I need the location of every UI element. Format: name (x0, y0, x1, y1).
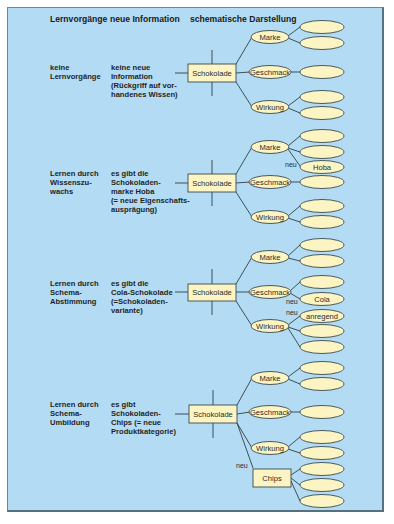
leaf-node (300, 66, 344, 79)
leaf-node (300, 255, 344, 268)
leaf-node (300, 176, 344, 189)
svg-text:Marke: Marke (259, 33, 280, 42)
row-wissenszuwachs: Lernen durch Wissenszu- wachs es gibt di… (49, 130, 344, 229)
leaf-node (300, 91, 344, 104)
leaf-node (300, 276, 344, 289)
new-label: neu (286, 298, 298, 305)
info-label: es gibt (111, 400, 136, 409)
leaf-node (300, 37, 344, 50)
leaf-node (300, 239, 344, 252)
leaf-node (300, 463, 344, 476)
process-label: Lernen durch (50, 279, 99, 288)
leaf-node (300, 447, 344, 460)
info-label: variante) (111, 306, 143, 315)
header-schematische-darstellung: schematische Darstellung (190, 14, 297, 24)
leaf-node (300, 107, 344, 120)
svg-text:Geschmack: Geschmack (250, 288, 290, 297)
info-label: Chips (= neue (111, 418, 161, 427)
svg-text:Marke: Marke (259, 253, 280, 262)
leaf-node (300, 146, 344, 159)
leaf-node (300, 130, 344, 143)
info-label: (=Schokoladen- (111, 297, 168, 306)
leaf-node (300, 495, 344, 508)
svg-text:Geschmack: Geschmack (250, 68, 290, 77)
leaf-node (300, 479, 344, 492)
learning-schema-diagram: Lernvorgänge neue Information schematisc… (0, 0, 394, 524)
svg-text:Marke: Marke (259, 143, 280, 152)
process-label: Lernen durch (50, 169, 99, 178)
info-label: marke Hoba (111, 187, 155, 196)
process-label: Abstimmung (50, 297, 97, 306)
info-label: Produktkategorie) (111, 427, 176, 436)
svg-text:Geschmack: Geschmack (250, 408, 290, 417)
process-label: wachs (49, 187, 73, 196)
root-node-label: Schokolade (193, 410, 233, 419)
leaf-node (300, 200, 344, 213)
process-label: Lernen durch (50, 400, 99, 409)
svg-text:Wirkung: Wirkung (256, 322, 284, 331)
new-label: neu (285, 161, 297, 168)
process-label: Schema- (50, 409, 82, 418)
leaf-node (300, 378, 344, 391)
svg-text:Wirkung: Wirkung (256, 213, 284, 222)
info-label: (= neue Eigenschafts- (111, 196, 190, 205)
leaf-node (300, 362, 344, 375)
svg-text:Wirkung: Wirkung (256, 444, 284, 453)
leaf-node (300, 341, 344, 354)
process-label: Lernvorgänge (50, 72, 101, 81)
info-label: (Rückgriff auf vor- (111, 81, 177, 90)
leaf-node (300, 431, 344, 444)
new-label: neu (286, 309, 298, 316)
root-node-label: Schokolade (192, 179, 232, 188)
svg-text:Marke: Marke (259, 374, 280, 383)
svg-text:Hoba: Hoba (313, 163, 332, 172)
process-label: keine (50, 63, 69, 72)
leaf-node (300, 406, 344, 419)
row-keine-lernvorgaenge: keine Lernvorgänge keine neue Informatio… (50, 21, 344, 120)
leaf-node (300, 21, 344, 34)
process-label: Umbildung (50, 418, 90, 427)
svg-text:Wirkung: Wirkung (256, 103, 284, 112)
leaf-node (300, 216, 344, 229)
row-schema-abstimmung: Lernen durch Schema- Abstimmung es gibt … (50, 239, 344, 354)
info-label: Cola-Schokolade (111, 288, 173, 297)
info-label: Schokoladen- (111, 178, 161, 187)
info-label: es gibt die (111, 169, 149, 178)
process-label: Wissenszu- (50, 178, 92, 187)
info-label: Information (111, 72, 153, 81)
svg-text:anregend: anregend (306, 312, 338, 321)
info-label: keine neue (111, 63, 150, 72)
row-schema-umbildung: Lernen durch Schema- Umbildung es gibt S… (50, 362, 344, 508)
info-label: handenes Wissen) (111, 90, 178, 99)
svg-text:Chips: Chips (262, 474, 282, 483)
process-label: Schema- (50, 288, 82, 297)
root-node-label: Schokolade (192, 69, 232, 78)
root-node-label: Schokolade (192, 288, 232, 297)
info-label: ausprägung) (111, 205, 157, 214)
header-neue-information: neue Information (110, 14, 180, 24)
info-label: Schokoladen- (111, 409, 161, 418)
svg-text:Geschmack: Geschmack (250, 178, 290, 187)
svg-text:Cola: Cola (314, 295, 330, 304)
info-label: es gibt die (111, 279, 149, 288)
leaf-node (300, 325, 344, 338)
header-lernvorgaenge: Lernvorgänge (50, 14, 108, 24)
new-label: neu (236, 462, 248, 469)
